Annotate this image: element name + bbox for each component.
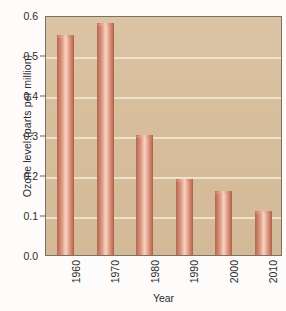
- bar-top-cap: [136, 135, 153, 138]
- y-axis-tick-label: 0.4: [23, 90, 38, 102]
- plot-area: [45, 16, 282, 256]
- y-axis-tick-label: 0.2: [23, 170, 38, 182]
- y-axis-tick-group: 0.00.10.20.30.40.50.6: [0, 16, 40, 256]
- ozone-level-bar-chart: Ozone level (parts per million) 0.00.10.…: [0, 0, 286, 311]
- bar-top-cap: [97, 23, 114, 26]
- y-axis-tick-label: 0.1: [23, 210, 38, 222]
- bar-top-cap: [176, 179, 193, 182]
- bar-top-cap: [255, 211, 272, 214]
- gridline: [46, 177, 281, 179]
- y-axis-tick-label: 0.0: [23, 250, 38, 262]
- x-axis-tick-label: 2010: [267, 260, 279, 283]
- bar: [136, 135, 153, 255]
- bar: [57, 35, 74, 255]
- gridline: [46, 57, 281, 59]
- y-axis-tick-label: 0.3: [23, 130, 38, 142]
- gridline: [46, 137, 281, 139]
- y-axis-tick-label: 0.5: [23, 50, 38, 62]
- plot-background-shading: [46, 17, 281, 255]
- x-axis-tick-label: 1970: [109, 260, 121, 283]
- gridline: [46, 97, 281, 99]
- x-axis-tick-label: 1990: [188, 260, 200, 283]
- gridline: [46, 217, 281, 219]
- bar-top-cap: [215, 191, 232, 194]
- x-axis-title: Year: [45, 292, 282, 304]
- x-axis-tick-label: 2000: [228, 260, 240, 283]
- x-axis-tick-label: 1960: [70, 260, 82, 283]
- x-axis-tick-label: 1980: [149, 260, 161, 283]
- bar: [176, 179, 193, 255]
- bar: [255, 211, 272, 255]
- bar: [215, 191, 232, 255]
- bar: [97, 23, 114, 255]
- bar-top-cap: [57, 35, 74, 38]
- y-axis-tick-label: 0.6: [23, 10, 38, 22]
